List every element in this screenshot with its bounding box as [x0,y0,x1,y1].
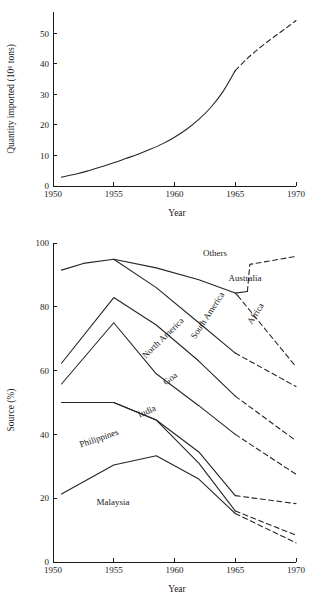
series-north-america-dashed [235,396,296,441]
figure-two-panel-chart: 1950195519601965197001020304050 Year Qua… [0,0,311,604]
bottom-y-axis-title: Source (%) [6,389,17,432]
y-tick-label: 20 [40,120,50,130]
top-tick-marks [53,33,296,186]
series-label-australia: Australia [229,273,262,283]
series-india-dashed [235,496,296,504]
x-tick-label: 1960 [166,565,185,575]
series-goa-dashed [235,434,296,474]
series-quantity-imported-projected- [235,21,296,71]
y-tick-label: 30 [40,90,50,100]
top-y-axis-title: Quantity imported (10⁶ tons) [6,44,17,154]
x-tick-label: 1970 [287,189,306,199]
series-others-solid [62,259,248,293]
x-tick-label: 1965 [226,565,245,575]
x-tick-label: 1970 [287,565,306,575]
series-label-south-america: South America [189,290,227,341]
series-label-malaysia: Malaysia [97,497,130,507]
y-tick-label: 0 [45,181,50,191]
y-tick-label: 80 [40,302,50,312]
series-label-others: Others [203,248,227,258]
series-label-goa: Goa [161,370,179,387]
panel-quantity-imported: 1950195519601965197001020304050 Year Qua… [6,12,306,218]
x-tick-label: 1955 [105,189,124,199]
top-x-axis-title: Year [168,208,186,218]
top-axes [53,12,296,186]
panel-source-percent: 19501955196019651970020406080100 OthersA… [6,238,306,594]
series-africa-dashed [238,296,296,367]
series-malaysia-dashed [235,514,296,543]
series-philippines-solid [62,403,236,511]
y-tick-label: 20 [40,493,50,503]
top-series-lines [62,21,296,178]
chart-canvas: 1950195519601965197001020304050 Year Qua… [0,0,311,604]
series-philippines-dashed [235,511,296,535]
x-tick-label: 1955 [105,565,124,575]
bottom-series-inline-labels: OthersAustraliaSouth AmericaAfricaNorth … [78,248,266,507]
series-label-north-america: North America [140,316,186,361]
bottom-tick-labels: 19501955196019651970020406080100 [36,238,306,575]
bottom-x-axis-title: Year [168,584,186,594]
series-label-india: India [136,403,157,420]
series-goa-solid [62,323,236,435]
x-tick-label: 1965 [226,189,245,199]
series-label-philippines: Philippines [78,427,120,450]
series-label-africa: Africa [245,301,266,326]
y-tick-label: 10 [40,151,50,161]
y-tick-label: 0 [45,557,50,567]
x-tick-label: 1960 [166,189,185,199]
y-tick-label: 100 [36,238,50,248]
series-south-america-dashed [235,353,296,386]
y-tick-label: 40 [40,430,50,440]
y-tick-label: 40 [40,59,50,69]
y-tick-label: 50 [40,29,50,39]
series-quantity-imported-observed- [62,71,236,178]
y-tick-label: 60 [40,366,50,376]
